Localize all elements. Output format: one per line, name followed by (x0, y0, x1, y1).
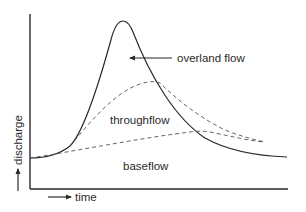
overland-flow-curve (30, 21, 287, 158)
y-axis-label: discharge (12, 115, 24, 165)
overland-flow-label: overland flow (177, 52, 245, 64)
baseflow-label: baseflow (123, 160, 169, 172)
baseflow-curve (30, 131, 265, 158)
throughflow-label: throughflow (110, 114, 170, 126)
x-axis-label: time (75, 191, 97, 203)
hydrograph-diagram: overland flow throughflow baseflow disch… (0, 0, 306, 212)
